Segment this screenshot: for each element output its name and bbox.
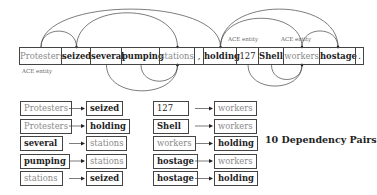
pair-head-box: several [20, 136, 63, 151]
token: 127 [236, 47, 259, 65]
dependency-arc [41, 9, 221, 47]
ace-entity-label-protesters: ACE entity [22, 68, 52, 74]
pair-arrowhead-icon [81, 159, 85, 163]
pair-head-box: hostage [153, 171, 198, 186]
token: Shell [258, 47, 284, 65]
token: seized [61, 47, 91, 65]
pair-head-box: workers [153, 136, 196, 151]
token: hostage [319, 47, 356, 65]
pair-arrowhead-icon [209, 142, 213, 146]
pair-arrowhead-icon [81, 142, 85, 146]
pair-arrowhead-icon [209, 159, 213, 163]
pair-arrowhead-icon [81, 124, 85, 128]
dependency-arc [141, 65, 178, 81]
pair-head-box: pumping [20, 154, 70, 169]
pair-dep-box: workers [214, 154, 257, 169]
pair-dep-box: seized [86, 171, 123, 186]
pair-head-box: stations [20, 171, 63, 186]
token: . [355, 47, 364, 65]
pair-arrowhead-icon [81, 177, 85, 181]
pair-dep-box: workers [214, 101, 257, 116]
pair-arrowhead-icon [81, 107, 85, 111]
pair-dep-box: holding [214, 136, 258, 151]
pair-head-box: Shell [153, 119, 189, 134]
dependency-arc [248, 65, 302, 86]
pair-arrowhead-icon [209, 177, 213, 181]
dependency-arc [41, 31, 77, 47]
ace-entity-label-stations: ACE entity [228, 36, 258, 42]
pair-dep-box: seized [86, 101, 123, 116]
pair-dep-box: workers [214, 119, 257, 134]
pair-dep-box: holding [86, 119, 130, 134]
pair-head-box: Protesters [20, 119, 72, 134]
pair-head-box: hostage [153, 154, 198, 169]
token: Protesters [19, 47, 62, 65]
token: stations [159, 47, 195, 65]
pair-dep-box: stations [86, 136, 127, 151]
sentence-token-row: Protestersseizedseveralpumpingstations,h… [20, 47, 364, 65]
pair-arrowhead-icon [209, 107, 213, 111]
token: holding [203, 47, 237, 65]
dependency-pairs-summary: 10 Dependency Pairs [265, 134, 377, 145]
pair-head-box: Protesters [20, 101, 72, 116]
pair-arrowhead-icon [209, 124, 213, 128]
token: workers [283, 47, 320, 65]
pair-dep-box: holding [214, 171, 258, 186]
pair-head-box: 127 [153, 101, 189, 116]
token: several [90, 47, 122, 65]
dependency-arc [77, 13, 178, 47]
ace-entity-label-workers: ACE entity [281, 36, 311, 42]
pair-dep-box: stations [86, 154, 127, 169]
token: pumping [121, 47, 160, 65]
dependency-arc [107, 65, 178, 91]
